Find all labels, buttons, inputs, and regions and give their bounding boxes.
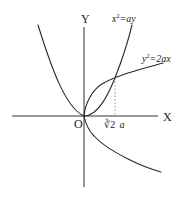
curve-y2-2ax-upper xyxy=(84,63,163,116)
equation-label-y2-2ax: y2=2ax xyxy=(141,53,171,64)
y-axis-label: Y xyxy=(81,12,90,26)
eq2-rest: =2ax xyxy=(149,53,171,64)
tick-radical: ∛2 xyxy=(104,118,115,130)
tick-var: a xyxy=(119,119,124,130)
equation-label-x2-ay: x2=ay xyxy=(111,13,136,24)
eq1-rest: =ay xyxy=(119,13,136,24)
intersection-x-label: ∛2a xyxy=(104,118,124,130)
parabola-diagram: Y X O x2=ay y2=2ax ∛2a xyxy=(0,0,182,200)
x-axis-label: X xyxy=(163,110,172,124)
origin-label: O xyxy=(74,117,83,131)
curve-x2-ay xyxy=(38,25,132,116)
